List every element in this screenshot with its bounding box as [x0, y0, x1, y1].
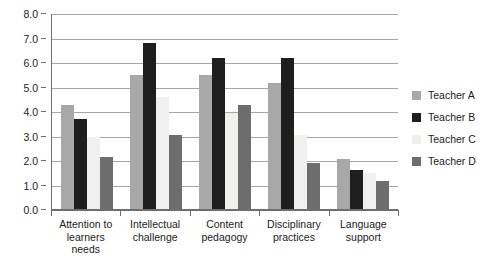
bar-c-1[interactable]: [156, 97, 169, 210]
y-axis-tick-mark: [41, 160, 46, 161]
legend-item-label: Teacher C: [428, 134, 476, 145]
legend-item-a[interactable]: Teacher A: [412, 84, 492, 106]
y-axis-tick-mark: [41, 87, 46, 88]
legend-item-c[interactable]: Teacher C: [412, 128, 492, 150]
y-axis-tick-label: 2.0: [23, 156, 38, 166]
x-axis-tick-mark: [51, 210, 52, 216]
x-axis-tick-mark: [190, 210, 191, 216]
bar-group: [121, 14, 190, 210]
legend-item-b[interactable]: Teacher B: [412, 106, 492, 128]
y-axis-tick-label: 1.0: [23, 181, 38, 191]
y-axis-tick-mark: [41, 13, 46, 14]
bar-d-0[interactable]: [100, 157, 113, 210]
bar-a-3[interactable]: [268, 83, 281, 210]
x-axis-category-label: Attention to learners needs: [51, 218, 120, 268]
legend-swatch-icon: [412, 113, 421, 122]
bar-group: [329, 14, 398, 210]
legend-swatch-icon: [412, 91, 421, 100]
plot-area: [51, 14, 398, 210]
x-axis-category-label: Intellectual challenge: [120, 218, 189, 268]
bar-d-4[interactable]: [376, 181, 389, 210]
bar-b-0[interactable]: [74, 119, 87, 210]
y-axis-tick-label: 5.0: [23, 83, 38, 93]
x-axis-category-label: Disciplinary practices: [259, 218, 328, 268]
bar-d-1[interactable]: [169, 135, 182, 210]
bar-b-4[interactable]: [350, 170, 363, 210]
bar-a-0[interactable]: [61, 105, 74, 210]
legend-swatch-icon: [412, 157, 421, 166]
bar-group: [260, 14, 329, 210]
bar-group: [52, 14, 121, 210]
y-axis-tick-label: 3.0: [23, 132, 38, 142]
x-axis-category-label: Content pedagogy: [190, 218, 259, 268]
x-axis-tick-mark: [398, 210, 399, 216]
x-axis-tick-mark: [120, 210, 121, 216]
y-axis-tick-label: 8.0: [23, 9, 38, 19]
legend-item-d[interactable]: Teacher D: [412, 150, 492, 172]
x-axis-tick-mark: [259, 210, 260, 216]
x-axis-ticks: [51, 210, 398, 216]
y-axis-tick-mark: [41, 136, 46, 137]
x-axis-category-label: Language support: [329, 218, 398, 268]
y-axis-tick-mark: [41, 209, 46, 210]
bar-c-0[interactable]: [87, 137, 100, 211]
bar-b-1[interactable]: [143, 43, 156, 210]
x-axis-tick-mark: [329, 210, 330, 216]
legend-item-label: Teacher D: [428, 156, 476, 167]
y-axis-tick-label: 6.0: [23, 58, 38, 68]
y-axis-tick-label: 7.0: [23, 34, 38, 44]
bar-a-4[interactable]: [337, 159, 350, 210]
y-axis-tick-mark: [41, 111, 46, 112]
legend-item-label: Teacher B: [428, 112, 475, 123]
bar-chart: 0.01.02.03.04.05.06.07.08.0 Attention to…: [0, 0, 493, 272]
y-axis-tick-label: 0.0: [23, 205, 38, 215]
bar-b-3[interactable]: [281, 58, 294, 210]
y-axis-tick-mark: [41, 185, 46, 186]
legend-item-label: Teacher A: [428, 90, 475, 101]
x-axis-category-labels: Attention to learners needsIntellectual …: [51, 218, 398, 268]
bar-d-2[interactable]: [238, 105, 251, 210]
bar-b-2[interactable]: [212, 58, 225, 210]
legend-swatch-icon: [412, 135, 421, 144]
y-axis-tick-mark: [41, 38, 46, 39]
legend: Teacher ATeacher BTeacher CTeacher D: [412, 84, 492, 172]
bar-a-1[interactable]: [130, 75, 143, 210]
bar-group: [190, 14, 259, 210]
bar-c-2[interactable]: [225, 113, 238, 210]
y-axis-tick-mark: [41, 62, 46, 63]
bar-a-2[interactable]: [199, 75, 212, 210]
bar-groups: [52, 14, 398, 210]
y-axis: 0.01.02.03.04.05.06.07.08.0: [0, 14, 46, 210]
y-axis-tick-label: 4.0: [23, 107, 38, 117]
bar-c-3[interactable]: [294, 135, 307, 210]
bar-c-4[interactable]: [363, 173, 376, 210]
bar-d-3[interactable]: [307, 163, 320, 210]
